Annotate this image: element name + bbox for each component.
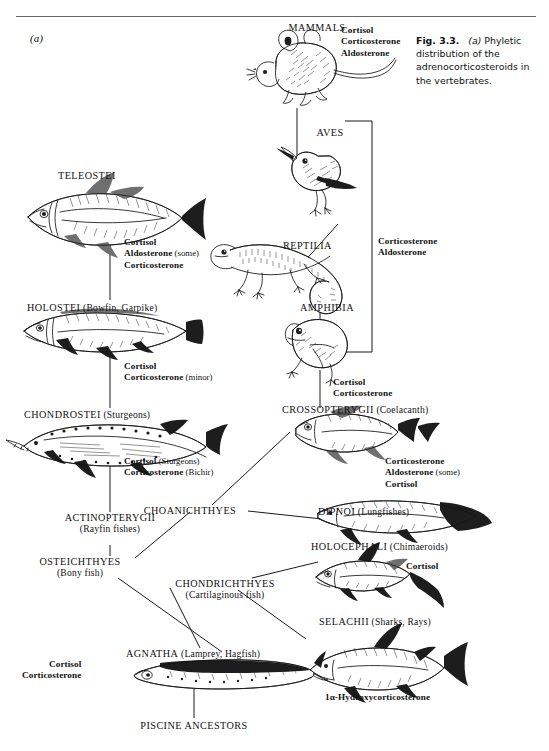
taxon-label-teleostei: TELEOSTEI: [58, 170, 116, 181]
hormones-holocephali: Cortisol: [406, 561, 438, 572]
taxon-label-actinopterygii: ACTINOPTERYGII(Rayfin fishes): [65, 512, 156, 534]
shark-illustration: [310, 623, 468, 703]
hormones-selachii: 1α-Hydroxycorticosterone: [325, 692, 430, 703]
hormones-teleostei: Cortisol Aldosterone (some) Corticostero…: [124, 237, 199, 271]
taxon-label-chondrostei: CHONDROSTEI (Sturgeons): [24, 409, 150, 420]
hormones-chondrostei: Cortisol (Sturgeons) Corticosterone (Bic…: [124, 456, 213, 479]
taxon-label-dipnoi: DIPNOI (Lungfishes): [318, 506, 409, 517]
hormones-crossopterygii: Corticosterone Aldosterone (some) Cortis…: [385, 456, 460, 490]
taxon-label-aves: AVES: [316, 127, 343, 138]
taxon-label-holostei: HOLOSTEI (Bowfin, Garpike): [27, 302, 157, 313]
taxon-label-holocephali: HOLOCEPHALI (Chimaeroids): [311, 541, 448, 552]
taxon-label-choanichthyes: CHOANICHTHYES: [144, 505, 236, 516]
taxon-label-reptilia: REPTILIA: [283, 240, 332, 251]
figure-caption: Fig. 3.3. (a) Phyletic distribution of t…: [416, 34, 538, 87]
taxon-label-agnatha: AGNATHA (Lamprey, Hagfish): [126, 648, 260, 659]
hormones-reptilia-aves: Corticosterone Aldosterone: [378, 236, 437, 259]
hormones-agnatha: Cortisol Corticosterone: [22, 659, 81, 682]
hormones-holostei: Cortisol Corticosterone (minor): [124, 361, 212, 384]
taxon-label-amphibia: AMPHIBIA: [300, 302, 354, 313]
bowfin-illustration: [24, 309, 204, 360]
bird-illustration: [276, 147, 357, 216]
hormones-mammals: Cortisol Corticosterone Aldosterone: [341, 25, 400, 59]
caption-figure-number: Fig. 3.3.: [416, 35, 459, 46]
taxon-label-chondrichthyes: CHONDRICHTHYES(Cartilaginous fish): [175, 578, 275, 600]
taxon-label-crossopterygii: CROSSOPTERYGII (Coelacanth): [282, 404, 428, 415]
animal-illustrations: [0, 0, 549, 751]
taxon-label-selachii: SELACHII (Sharks, Rays): [319, 616, 431, 627]
taxon-label-mammals: MAMMALS: [289, 22, 346, 33]
taxon-label-osteichthyes: OSTEICHTHYES(Bony fish): [39, 556, 120, 578]
hormones-amphibia: Cortisol Corticosterone: [333, 377, 392, 400]
taxon-label-piscine-ancestors: PISCINE ANCESTORS: [140, 720, 247, 731]
figure-page: (a): [0, 0, 549, 751]
caption-panel-letter: (a): [468, 35, 481, 46]
lamprey-illustration: [134, 660, 314, 689]
